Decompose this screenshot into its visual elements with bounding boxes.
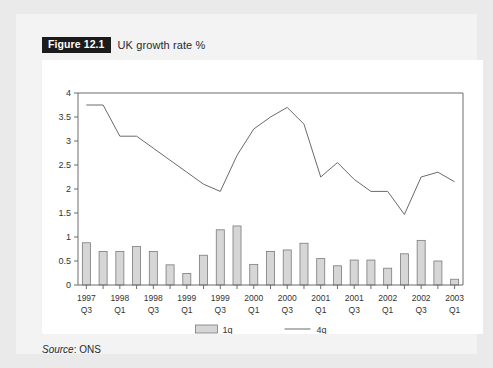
- legend-label-4q: 4q: [317, 325, 327, 335]
- bar: [99, 251, 107, 285]
- source-label: Source: [42, 344, 74, 355]
- y-tick-label: 1: [66, 232, 71, 242]
- x-tick-year: 1999: [177, 293, 196, 303]
- x-tick-year: 2002: [378, 293, 397, 303]
- bar: [350, 260, 358, 285]
- y-tick-label: 4: [66, 88, 71, 98]
- x-tick-year: 1998: [144, 293, 163, 303]
- y-tick-label: 0.5: [58, 256, 71, 266]
- bar: [183, 273, 191, 285]
- y-tick-label: 3: [66, 136, 71, 146]
- y-tick-label: 0: [66, 280, 71, 290]
- bar: [400, 254, 408, 285]
- growth-rate-chart: 00.511.522.533.54 1997Q31998Q11998Q31999…: [42, 60, 483, 334]
- source-separator: :: [74, 344, 77, 355]
- x-axis-ticks: [86, 285, 454, 289]
- x-tick-year: 1999: [211, 293, 230, 303]
- chart-legend: 1q4q: [196, 325, 327, 335]
- bar: [283, 250, 291, 285]
- x-tick-quarter: Q3: [81, 305, 93, 315]
- x-tick-year: 2001: [345, 293, 364, 303]
- x-tick-year: 2001: [311, 293, 330, 303]
- line-series-4q: [86, 105, 454, 214]
- line-path: [86, 105, 454, 214]
- bar: [133, 247, 141, 285]
- bar: [200, 255, 208, 285]
- x-tick-quarter: Q3: [282, 305, 294, 315]
- x-tick-quarter: Q1: [181, 305, 193, 315]
- y-axis-ticks: 00.511.522.533.54: [58, 88, 78, 290]
- x-tick-quarter: Q1: [114, 305, 126, 315]
- x-tick-year: 2002: [412, 293, 431, 303]
- bar: [434, 261, 442, 285]
- chart-plot-area: 00.511.522.533.54 1997Q31998Q11998Q31999…: [42, 60, 483, 334]
- x-tick-year: 2000: [278, 293, 297, 303]
- x-tick-quarter: Q3: [215, 305, 227, 315]
- y-tick-label: 2.5: [58, 160, 71, 170]
- bar: [149, 251, 157, 285]
- bar: [317, 259, 325, 285]
- x-tick-quarter: Q3: [148, 305, 160, 315]
- bar: [233, 226, 241, 285]
- bar: [82, 243, 90, 285]
- bar: [417, 240, 425, 285]
- legend-swatch-1q: [196, 325, 218, 333]
- y-tick-label: 2: [66, 184, 71, 194]
- x-axis-labels: 1997Q31998Q11998Q31999Q11999Q32000Q12000…: [77, 293, 464, 315]
- bar: [116, 251, 124, 285]
- bar: [250, 264, 258, 285]
- y-tick-label: 1.5: [58, 208, 71, 218]
- x-tick-year: 2003: [445, 293, 464, 303]
- x-tick-quarter: Q3: [415, 305, 427, 315]
- x-tick-year: 2000: [244, 293, 263, 303]
- figure-number-badge: Figure 12.1: [42, 37, 111, 53]
- bar-series-1q: [82, 226, 458, 285]
- x-tick-quarter: Q1: [449, 305, 461, 315]
- figure-card: Figure 12.1 UK growth rate % 00.511.522.…: [16, 14, 477, 354]
- bar: [300, 243, 308, 285]
- source-value: ONS: [79, 344, 101, 355]
- figure-title: UK growth rate %: [118, 39, 206, 51]
- x-tick-quarter: Q3: [349, 305, 361, 315]
- figure-page: Figure 12.1 UK growth rate % 00.511.522.…: [0, 0, 493, 368]
- figure-title-row: Figure 12.1 UK growth rate %: [42, 36, 205, 54]
- bar: [451, 279, 459, 285]
- bar: [367, 260, 375, 285]
- y-tick-label: 3.5: [58, 112, 71, 122]
- source-note: Source: ONS: [42, 344, 101, 355]
- bar: [216, 230, 224, 285]
- x-tick-year: 1998: [110, 293, 129, 303]
- bar: [333, 266, 341, 285]
- x-tick-year: 1997: [77, 293, 96, 303]
- x-tick-quarter: Q1: [315, 305, 327, 315]
- x-tick-quarter: Q1: [382, 305, 394, 315]
- legend-label-1q: 1q: [223, 325, 233, 335]
- bar: [384, 268, 392, 285]
- bar: [166, 265, 174, 285]
- bar: [266, 251, 274, 285]
- x-tick-quarter: Q1: [248, 305, 260, 315]
